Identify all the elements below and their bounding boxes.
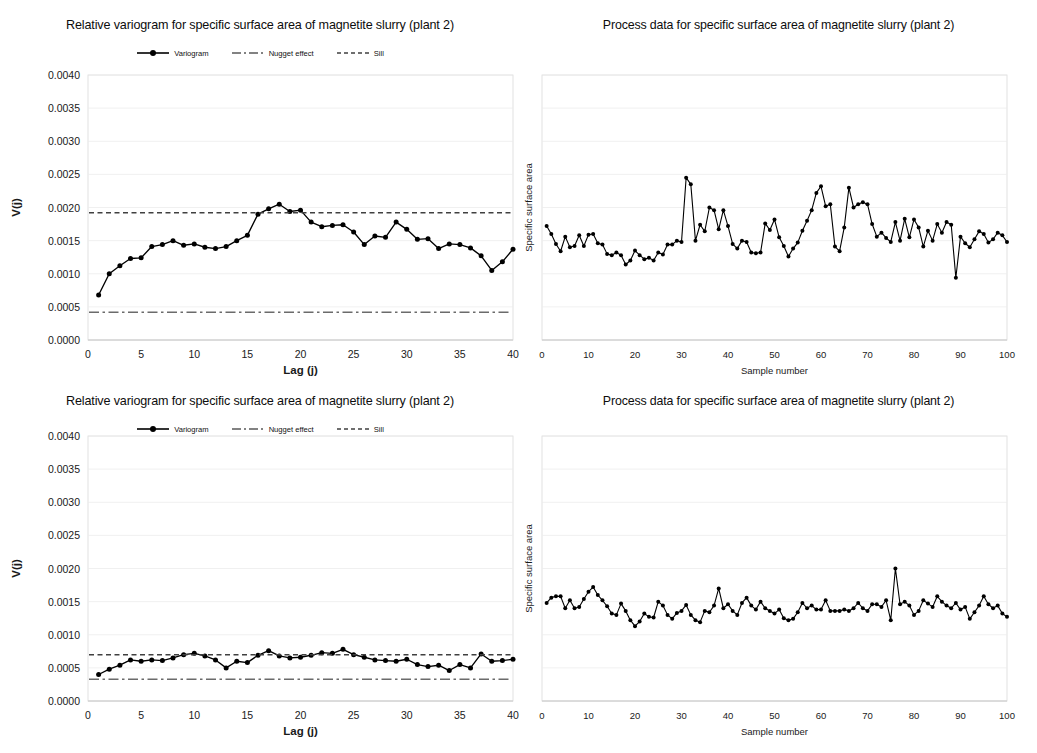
data-point [977, 604, 981, 608]
x-tick-label: 30 [676, 710, 687, 721]
data-point [847, 609, 851, 613]
data-point [893, 220, 897, 224]
data-point [810, 208, 814, 212]
data-point [234, 238, 239, 243]
data-point [866, 609, 870, 613]
x-tick-label: 30 [401, 348, 413, 360]
data-point [968, 245, 972, 249]
data-point [554, 242, 558, 246]
data-point [628, 259, 632, 263]
data-point [712, 208, 716, 212]
data-point [489, 659, 494, 664]
data-point [605, 604, 609, 608]
data-point [171, 655, 176, 660]
data-point [245, 233, 250, 238]
data-point [596, 593, 600, 597]
data-point [500, 658, 505, 663]
data-point [139, 659, 144, 664]
x-tick-label: 20 [630, 349, 641, 360]
y-axis-title: Specific surface area [523, 162, 534, 251]
data-point [549, 596, 553, 600]
data-point [587, 590, 591, 594]
data-point [852, 206, 856, 210]
x-tick-label: 100 [999, 349, 1015, 360]
x-tick-label: 25 [348, 709, 360, 721]
data-point [921, 245, 925, 249]
data-point [954, 276, 958, 280]
data-point [1000, 612, 1004, 616]
data-point [426, 236, 431, 241]
data-point [745, 240, 749, 244]
data-point [884, 236, 888, 240]
data-point [972, 237, 976, 241]
y-tick-label: 0.0010 [48, 629, 80, 641]
y-axis-title: V(j) [10, 198, 22, 217]
data-point [614, 613, 618, 617]
data-point [404, 657, 409, 662]
data-point [907, 604, 911, 608]
data-point [587, 233, 591, 237]
data-point [582, 244, 586, 248]
data-point [234, 659, 239, 664]
plot-top-right: Specific surface area0102030405060708090… [520, 0, 1037, 376]
data-point [935, 222, 939, 226]
plot-bottom-left: 0.00000.00050.00100.00150.00200.00250.00… [0, 376, 520, 753]
data-point [926, 602, 930, 606]
data-point [619, 253, 623, 257]
x-tick-label: 0 [539, 349, 544, 360]
data-point [1000, 233, 1004, 237]
data-point [319, 224, 324, 229]
data-point [245, 660, 250, 665]
data-point [977, 229, 981, 233]
data-point [852, 606, 856, 610]
data-point [972, 610, 976, 614]
data-point [684, 603, 688, 607]
data-point [740, 601, 744, 605]
x-tick-label: 30 [401, 709, 413, 721]
data-point [833, 245, 837, 249]
data-point [500, 259, 505, 264]
data-point [926, 229, 930, 233]
data-point [675, 239, 679, 243]
data-point [838, 249, 842, 253]
data-point [735, 613, 739, 617]
x-tick-label: 5 [138, 348, 144, 360]
data-point [545, 224, 549, 228]
data-point [819, 184, 823, 188]
data-point [666, 613, 670, 617]
data-point [224, 665, 229, 670]
data-point [656, 251, 660, 255]
data-point [624, 609, 628, 613]
y-tick-label: 0.0025 [48, 168, 80, 180]
data-point [693, 239, 697, 243]
x-tick-label: 40 [723, 349, 734, 360]
data-point [907, 235, 911, 239]
data-point [986, 602, 990, 606]
data-point [577, 605, 581, 609]
data-point [192, 241, 197, 246]
data-point [563, 606, 567, 610]
data-point [563, 235, 567, 239]
data-point [824, 204, 828, 208]
data-point [330, 223, 335, 228]
data-point [842, 225, 846, 229]
data-point [903, 217, 907, 221]
data-point [735, 247, 739, 251]
data-point [213, 657, 218, 662]
data-point [931, 605, 935, 609]
data-point [568, 245, 572, 249]
data-point [680, 609, 684, 613]
data-point [810, 604, 814, 608]
data-point [963, 605, 967, 609]
data-point [647, 615, 651, 619]
data-point [160, 658, 165, 663]
x-tick-label: 70 [862, 349, 873, 360]
data-point [447, 668, 452, 673]
panel-top-right-process: Process data for specific surface area o… [520, 0, 1037, 376]
y-tick-label: 0.0010 [48, 268, 80, 280]
data-point [511, 247, 516, 252]
x-tick-label: 90 [955, 710, 966, 721]
data-point [680, 240, 684, 244]
data-point [893, 567, 897, 571]
data-point [661, 604, 665, 608]
